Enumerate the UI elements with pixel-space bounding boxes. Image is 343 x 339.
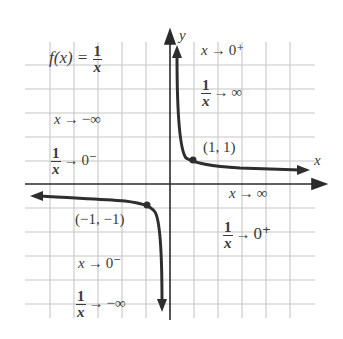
point-label-1-1: (1, 1) — [203, 140, 236, 155]
point-label-neg1-neg1: (−1, −1) — [75, 212, 124, 227]
point-neg1-neg1 — [144, 202, 151, 209]
annotation-q2-mid: 1x→0⁻ — [51, 146, 97, 177]
annotation-q4-top: x→∞ — [229, 186, 267, 201]
point-1-1 — [190, 157, 197, 164]
annotation-q4-mid: 1x→0⁺ — [223, 220, 271, 251]
curve-arrow-up-icon — [172, 45, 182, 58]
annotation-q3-mid: 1x→−∞ — [76, 289, 126, 320]
annotation-q1-mid: 1x→∞ — [201, 78, 242, 109]
y-axis-label: y — [179, 28, 186, 43]
curve-arrow-down-icon — [157, 299, 167, 312]
x-axis-label: x — [314, 153, 321, 168]
curve-arrow-left-icon — [30, 191, 43, 201]
y-axis-arrow-icon — [165, 30, 175, 44]
annotation-q2-top: x→−∞ — [54, 112, 101, 127]
curve-arrow-right-icon — [297, 165, 310, 175]
function-title: f(x) = 1x — [49, 44, 102, 75]
annotation-q1-top: x→0⁺ — [201, 43, 244, 58]
x-axis-arrow-icon — [312, 179, 326, 189]
annotation-q3-top: x→0⁻ — [78, 256, 121, 271]
